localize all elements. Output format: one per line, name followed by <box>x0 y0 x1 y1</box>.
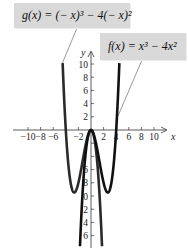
g-leader-line <box>62 28 77 64</box>
y-tick-label: 4 <box>83 218 88 228</box>
y-tick-label: 6 <box>83 86 88 96</box>
x-tick-label: −10 <box>21 132 36 142</box>
y-tick-label: 10 <box>79 60 89 70</box>
x-axis-name: x <box>170 131 176 142</box>
y-tick-label: 6 <box>83 231 88 241</box>
y-tick-label: 0 <box>83 192 88 202</box>
y-tick-label: 4 <box>83 99 88 109</box>
y-axis-name: y <box>80 47 86 58</box>
x-tick-label: −6 <box>48 132 58 142</box>
x-tick-label: 2 <box>101 132 106 142</box>
x-tick-label: 8 <box>139 132 144 142</box>
f-leader-line <box>118 60 142 116</box>
f-function-label: f(x) = x³ − 4x² <box>100 33 186 60</box>
x-tick-label: −2 <box>73 132 83 142</box>
x-tick-label: 6 <box>126 132 131 142</box>
y-tick-label: 2 <box>83 205 88 215</box>
f-function-text: f(x) = x³ − 4x² <box>108 39 177 53</box>
x-tick-label: −8 <box>36 132 46 142</box>
x-tick-label: 10 <box>149 132 159 142</box>
g-function-text: g(x) = (− x)³ − 4(− x)² <box>22 8 132 22</box>
y-tick-label: 8 <box>83 73 88 83</box>
y-tick-label: 2 <box>83 112 88 122</box>
g-function-label: g(x) = (− x)³ − 4(− x)² <box>14 3 130 28</box>
